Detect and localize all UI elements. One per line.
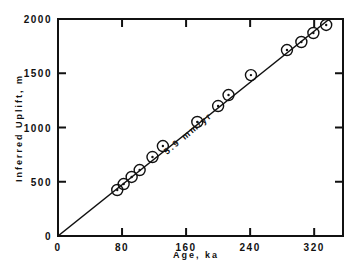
x-tick-label: 240 <box>240 242 261 253</box>
x-tick-label: 80 <box>115 242 129 253</box>
y-tick-label: 500 <box>31 177 52 188</box>
x-tick-label: 0 <box>54 242 61 253</box>
x-axis-label: Age, ka <box>173 250 219 260</box>
y-tick-label: 2000 <box>24 14 52 25</box>
y-axis-label: Inferred Uplift, m <box>14 74 24 182</box>
y-tick-label: 1500 <box>24 68 52 79</box>
rate-annotation: 5.9 mm/yr <box>162 110 214 156</box>
y-tick-label: 0 <box>45 231 52 242</box>
chart: 0801602403200500100015002000 Age, ka Inf… <box>0 0 359 271</box>
y-tick-label: 1000 <box>24 123 52 134</box>
x-tick-label: 320 <box>304 242 325 253</box>
